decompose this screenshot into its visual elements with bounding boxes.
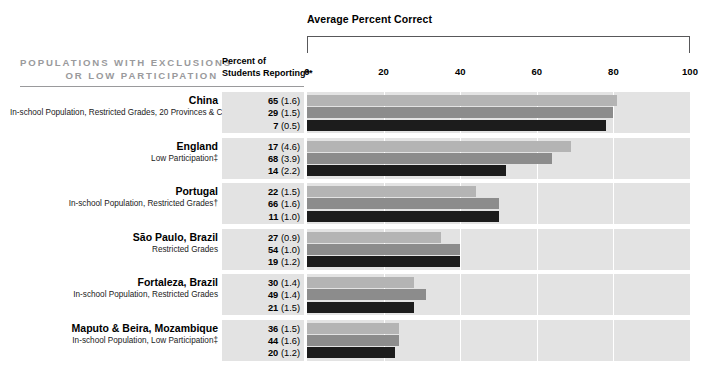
- value-number: 66: [268, 199, 278, 209]
- percent-reporting-values: 36 (1.5)44 (1.6)20 (1.2): [222, 320, 304, 361]
- value-number: 27: [268, 233, 278, 243]
- chart-row: Fortaleza, BrazilIn-school Population, R…: [0, 273, 715, 316]
- percent-reporting-value: 29 (1.5): [268, 107, 300, 119]
- data-bar: [307, 323, 399, 334]
- data-bar: [307, 165, 506, 176]
- percent-reporting-value: 49 (1.4): [268, 289, 300, 301]
- value-standard-error: (1.5): [278, 187, 300, 197]
- row-plot-band: [307, 229, 690, 270]
- axis-bracket: [307, 36, 690, 53]
- data-bar: [307, 347, 395, 358]
- value-number: 29: [268, 108, 278, 118]
- value-standard-error: (1.5): [278, 324, 300, 334]
- chart-page: Average Percent Correct 020406080100 POP…: [0, 0, 715, 380]
- chart-row: PortugalIn-school Population, Restricted…: [0, 182, 715, 225]
- gridline: [537, 183, 538, 224]
- percent-reporting-value: 68 (3.9): [268, 153, 300, 165]
- data-bar: [307, 95, 617, 106]
- value-number: 17: [268, 142, 278, 152]
- data-bar: [307, 198, 499, 209]
- data-bar: [307, 186, 476, 197]
- value-number: 65: [268, 96, 278, 106]
- data-bar: [307, 256, 460, 267]
- percent-reporting-values: 65 (1.6)29 (1.5)7 (0.5): [222, 92, 304, 133]
- row-country-name: Portugal: [10, 185, 218, 198]
- value-number: 14: [268, 166, 278, 176]
- gridline: [613, 138, 614, 179]
- percent-reporting-value: 21 (1.5): [268, 302, 300, 314]
- row-population-note: In-school Population, Low Participation‡: [10, 335, 218, 346]
- row-country-name: China: [10, 94, 218, 107]
- percent-reporting-values: 22 (1.5)66 (1.6)11 (1.0): [222, 183, 304, 224]
- percent-reporting-value: 17 (4.6): [268, 141, 300, 153]
- row-population-note: In-school Population, Restricted Grades,…: [10, 107, 218, 118]
- gridline: [537, 274, 538, 315]
- row-plot-band: [307, 320, 690, 361]
- value-number: 68: [268, 154, 278, 164]
- value-number: 22: [268, 187, 278, 197]
- x-tick-label: 40: [455, 66, 466, 77]
- bracket-right-tick: [689, 36, 690, 53]
- value-standard-error: (1.5): [278, 108, 300, 118]
- value-number: 36: [268, 324, 278, 334]
- data-bar: [307, 302, 414, 313]
- percent-reporting-header-line-2: Students Reporting**: [222, 68, 302, 80]
- data-bar: [307, 232, 441, 243]
- row-label-block: PortugalIn-school Population, Restricted…: [10, 185, 218, 209]
- data-bar: [307, 141, 571, 152]
- value-number: 30: [268, 278, 278, 288]
- chart-row: EnglandLow Participation‡17 (4.6)68 (3.9…: [0, 137, 715, 180]
- value-standard-error: (1.2): [278, 348, 300, 358]
- value-standard-error: (1.6): [278, 336, 300, 346]
- percent-reporting-value: 14 (2.2): [268, 165, 300, 177]
- row-label-block: São Paulo, BrazilRestricted Grades: [10, 231, 218, 255]
- gridline: [460, 274, 461, 315]
- percent-reporting-values: 17 (4.6)68 (3.9)14 (2.2): [222, 138, 304, 179]
- value-number: 21: [268, 303, 278, 313]
- gridline: [460, 229, 461, 270]
- bracket-top-line: [307, 36, 690, 37]
- gridline: [613, 320, 614, 361]
- percent-reporting-value: 44 (1.6): [268, 335, 300, 347]
- row-plot-band: [307, 138, 690, 179]
- row-label-block: Fortaleza, BrazilIn-school Population, R…: [10, 276, 218, 300]
- chart-row: ChinaIn-school Population, Restricted Gr…: [0, 91, 715, 134]
- bracket-left-tick: [307, 36, 308, 53]
- percent-reporting-value: 20 (1.2): [268, 347, 300, 359]
- populations-header-line-2: OR LOW PARTICIPATION: [20, 69, 218, 82]
- row-plot-band: [307, 274, 690, 315]
- percent-reporting-value: 54 (1.0): [268, 244, 300, 256]
- gridline: [537, 229, 538, 270]
- row-population-note: In-school Population, Restricted Grades: [10, 289, 218, 300]
- row-population-note: Restricted Grades: [10, 244, 218, 255]
- value-standard-error: (1.4): [278, 290, 300, 300]
- data-bar: [307, 107, 613, 118]
- row-country-name: England: [10, 140, 218, 153]
- row-country-name: Fortaleza, Brazil: [10, 276, 218, 289]
- chart-title: Average Percent Correct: [307, 13, 432, 25]
- row-population-note: Low Participation‡: [10, 153, 218, 164]
- data-bar: [307, 277, 414, 288]
- row-label-block: Maputo & Beira, MozambiqueIn-school Popu…: [10, 322, 218, 346]
- value-standard-error: (1.2): [278, 257, 300, 267]
- value-number: 54: [268, 245, 278, 255]
- percent-reporting-value: 19 (1.2): [268, 256, 300, 268]
- header-divider: [20, 86, 304, 87]
- gridline: [613, 183, 614, 224]
- percent-reporting-values: 27 (0.9)54 (1.0)19 (1.2): [222, 229, 304, 270]
- populations-header: POPULATIONS WITH EXCLUSIONS OR LOW PARTI…: [20, 56, 218, 82]
- value-standard-error: (4.6): [278, 142, 300, 152]
- gridline: [460, 320, 461, 361]
- percent-reporting-value: 36 (1.5): [268, 323, 300, 335]
- percent-reporting-header-line-1: Percent of: [222, 56, 302, 68]
- percent-reporting-value: 22 (1.5): [268, 186, 300, 198]
- percent-reporting-value: 66 (1.6): [268, 198, 300, 210]
- x-tick-label: 60: [532, 66, 543, 77]
- chart-row: São Paulo, BrazilRestricted Grades27 (0.…: [0, 228, 715, 271]
- data-bar: [307, 153, 552, 164]
- value-standard-error: (0.5): [278, 121, 300, 131]
- populations-header-line-1: POPULATIONS WITH EXCLUSIONS: [20, 56, 218, 69]
- data-bar: [307, 289, 426, 300]
- row-country-name: São Paulo, Brazil: [10, 231, 218, 244]
- row-plot-band: [307, 183, 690, 224]
